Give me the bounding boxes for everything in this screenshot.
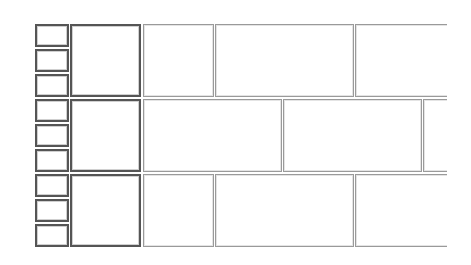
small-box[interactable]: [35, 149, 69, 172]
small-box[interactable]: [35, 99, 69, 122]
row-3-cell-narrow[interactable]: [143, 174, 214, 247]
row-2-cell-narrow-clipped[interactable]: [423, 99, 447, 172]
small-box[interactable]: [35, 199, 69, 222]
grid-canvas: [0, 0, 447, 265]
row-1-cell-wide[interactable]: [215, 24, 354, 97]
small-box[interactable]: [35, 74, 69, 97]
row-3-cell-wide[interactable]: [215, 174, 354, 247]
row-1-cell-wide-clipped[interactable]: [355, 24, 447, 97]
small-box[interactable]: [35, 124, 69, 147]
small-box[interactable]: [35, 49, 69, 72]
small-box[interactable]: [35, 174, 69, 197]
row-2-cell-wide[interactable]: [283, 99, 422, 172]
row-1-cell-narrow[interactable]: [143, 24, 214, 97]
square-box-row-2[interactable]: [70, 99, 141, 172]
row-2-cell-wide[interactable]: [143, 99, 282, 172]
small-box[interactable]: [35, 224, 69, 247]
row-3-cell-wide-clipped[interactable]: [355, 174, 447, 247]
small-box[interactable]: [35, 24, 69, 47]
square-box-row-1[interactable]: [70, 24, 141, 97]
square-box-row-3[interactable]: [70, 174, 141, 247]
